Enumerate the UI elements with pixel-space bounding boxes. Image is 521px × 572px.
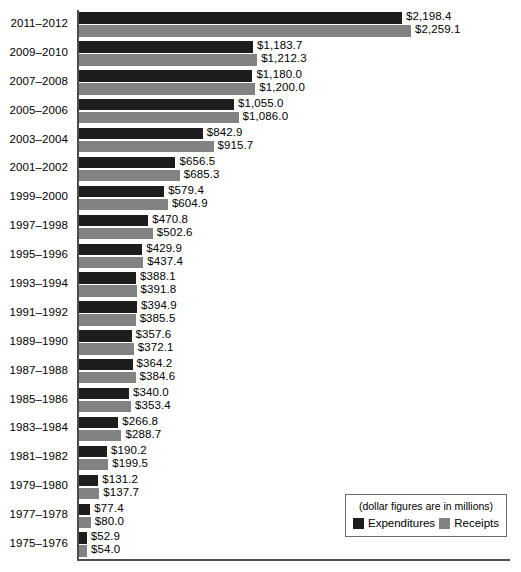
bar-rect [79,372,136,383]
bar-rect [79,272,136,283]
bar-chart: 2011–2012$2,198.4$2,259.12009–2010$1,183… [0,0,521,572]
bar-value-label: $391.8 [141,283,177,295]
bar-group: $470.8$502.6 [79,213,521,242]
category-tick-label: 1975–1976 [0,537,68,549]
bar-rect [79,430,121,441]
bar-rect [79,459,108,470]
bar-group: $364.2$384.6 [79,358,521,387]
bar-value-label: $364.2 [137,357,173,369]
bar-rect [79,446,107,457]
bar-value-label: $1,086.0 [243,110,289,122]
bar-rect [79,314,136,325]
bar-value-label: $340.0 [133,386,169,398]
bar-value-label: $1,055.0 [238,97,284,109]
bar-value-label: $266.8 [122,415,158,427]
bar-rect [79,25,411,36]
bar-value-label: $1,183.7 [257,39,303,51]
bar-rect [79,330,132,341]
chart-row: 1985–1986$340.0$353.4 [0,387,521,416]
category-tick-label: 1995–1996 [0,248,68,260]
category-tick-label: 2003–2004 [0,133,68,145]
bar-value-label: $394.9 [141,299,177,311]
bar-value-label: $502.6 [157,226,193,238]
bar-value-label: $137.7 [103,486,139,498]
bar-value-label: $1,212.3 [261,52,307,64]
legend-swatch-icon [439,518,450,529]
bar-rect [79,199,168,210]
bar-rect [79,70,252,81]
bar-value-label: $288.7 [125,428,161,440]
chart-row: 2003–2004$842.9$915.7 [0,127,521,156]
category-tick-label: 2011–2012 [0,17,68,29]
bar-rect [79,170,180,181]
bar-group: $656.5$685.3 [79,155,521,184]
category-tick-label: 2001–2002 [0,161,68,173]
bar-rect [79,157,175,168]
bar-group: $842.9$915.7 [79,127,521,156]
bar-value-label: $470.8 [152,213,188,225]
bar-rect [79,257,143,268]
bar-value-label: $685.3 [184,168,220,180]
chart-row: 1983–1984$266.8$288.7 [0,415,521,444]
chart-row: 1987–1988$364.2$384.6 [0,358,521,387]
bar-group: $394.9$385.5 [79,300,521,329]
bar-group: $1,180.0$1,200.0 [79,69,521,98]
bar-rect [79,83,255,94]
bar-value-label: $52.9 [91,530,120,542]
chart-row: 2011–2012$2,198.4$2,259.1 [0,11,521,40]
category-tick-label: 1983–1984 [0,421,68,433]
category-tick-label: 2007–2008 [0,75,68,87]
category-tick-label: 1979–1980 [0,479,68,491]
legend-label: Receipts [454,517,499,529]
chart-row: 1991–1992$394.9$385.5 [0,300,521,329]
bar-value-label: $429.9 [146,242,182,254]
bar-value-label: $77.4 [94,502,123,514]
bar-value-label: $385.5 [140,312,176,324]
bar-value-label: $80.0 [95,515,124,527]
bar-rect [79,12,402,23]
bar-value-label: $1,180.0 [256,68,302,80]
bar-group: $1,183.7$1,212.3 [79,40,521,69]
category-tick-label: 1999–2000 [0,190,68,202]
bar-value-label: $54.0 [91,543,120,555]
chart-row: 1995–1996$429.9$437.4 [0,242,521,271]
bar-rect [79,128,203,139]
category-tick-label: 1981–1982 [0,450,68,462]
chart-row: 2009–2010$1,183.7$1,212.3 [0,40,521,69]
bar-rect [79,475,98,486]
bar-value-label: $190.2 [111,444,147,456]
bar-value-label: $842.9 [207,126,243,138]
legend-note: (dollar figures are in millions) [346,500,506,512]
category-tick-label: 1989–1990 [0,335,68,347]
chart-legend: (dollar figures are in millions) Expendi… [345,494,507,537]
legend-entry-list: ExpendituresReceipts [353,517,499,529]
category-tick-label: 1987–1988 [0,364,68,376]
category-tick-label: 1991–1992 [0,306,68,318]
bar-value-label: $604.9 [172,197,208,209]
category-tick-label: 1997–1998 [0,219,68,231]
category-tick-label: 2009–2010 [0,46,68,58]
bar-value-label: $437.4 [147,255,183,267]
bar-group: $2,198.4$2,259.1 [79,11,521,40]
category-tick-label: 1993–1994 [0,277,68,289]
bar-rect [79,99,234,110]
bar-group: $190.2$199.5 [79,444,521,473]
bar-value-label: $915.7 [218,139,254,151]
bar-value-label: $357.6 [136,328,172,340]
bar-rect [79,141,214,152]
chart-row: 1981–1982$190.2$199.5 [0,444,521,473]
chart-row: 1989–1990$357.6$372.1 [0,329,521,358]
bar-value-label: $388.1 [140,270,176,282]
category-tick-label: 1977–1978 [0,508,68,520]
bar-value-label: $656.5 [179,155,215,167]
bar-value-label: $131.2 [102,473,138,485]
chart-row: 2001–2002$656.5$685.3 [0,155,521,184]
bar-value-label: $353.4 [135,399,171,411]
bar-rect [79,301,137,312]
bar-rect [79,112,239,123]
bar-rect [79,417,118,428]
bar-value-label: $2,198.4 [406,10,452,22]
bar-value-label: $579.4 [168,184,204,196]
bar-value-label: $199.5 [112,457,148,469]
legend-label: Expenditures [368,517,435,529]
